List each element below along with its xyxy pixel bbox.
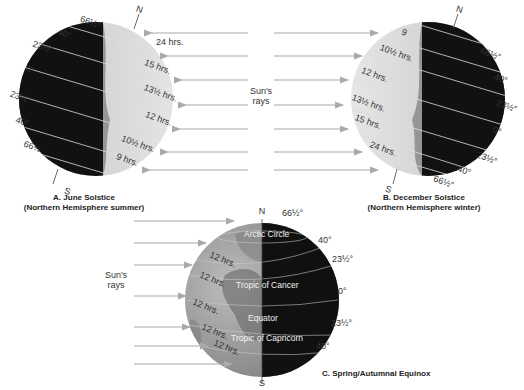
svg-text:0°: 0°: [338, 286, 347, 296]
north-pole-label-c: N: [259, 206, 266, 216]
svg-text:66½°: 66½°: [282, 208, 304, 218]
svg-text:rays: rays: [252, 96, 270, 106]
sun-rays-label-bottom: Sun's rays: [105, 270, 128, 290]
svg-text:Equator: Equator: [248, 313, 278, 323]
seasons-diagram: N S 66½° 40° 23½° 0° 23½° 40° 66½ 24 hrs…: [0, 0, 524, 390]
svg-text:40°: 40°: [316, 341, 330, 351]
svg-text:C. Spring/Autumnal Equinox: C. Spring/Autumnal Equinox: [322, 369, 431, 378]
svg-text:24 hrs.: 24 hrs.: [156, 37, 184, 47]
north-pole-label-a: N: [135, 4, 144, 16]
svg-text:40°: 40°: [456, 164, 473, 178]
svg-text:23½°: 23½°: [332, 254, 354, 264]
svg-text:Arctic Circle: Arctic Circle: [244, 229, 290, 239]
sun-rays-label-top: Sun's rays: [250, 86, 273, 106]
south-pole-label-c: S: [259, 378, 265, 388]
svg-text:A. June Solstice: A. June Solstice: [53, 193, 115, 202]
svg-text:66½°: 66½°: [432, 174, 456, 191]
north-pole-label-b: N: [455, 4, 464, 16]
caption-c: C. Spring/Autumnal Equinox: [322, 369, 431, 378]
svg-text:Tropic of Cancer: Tropic of Cancer: [236, 280, 299, 290]
svg-text:(Northern Hemisphere summer): (Northern Hemisphere summer): [24, 203, 145, 212]
caption-b: B. December Solstice (Northern Hemispher…: [368, 193, 481, 212]
svg-text:rays: rays: [107, 280, 125, 290]
caption-a: A. June Solstice (Northern Hemisphere su…: [24, 193, 145, 212]
svg-text:Sun's: Sun's: [105, 270, 128, 280]
svg-text:23½°: 23½°: [475, 150, 499, 167]
svg-text:40°: 40°: [318, 235, 332, 245]
svg-text:Tropic of Capricorn: Tropic of Capricorn: [231, 333, 303, 343]
svg-text:Sun's: Sun's: [250, 86, 273, 96]
svg-text:(Northern Hemisphere winter): (Northern Hemisphere winter): [368, 203, 481, 212]
svg-text:B. December Solstice: B. December Solstice: [383, 193, 465, 202]
svg-text:23½°: 23½°: [331, 318, 353, 328]
